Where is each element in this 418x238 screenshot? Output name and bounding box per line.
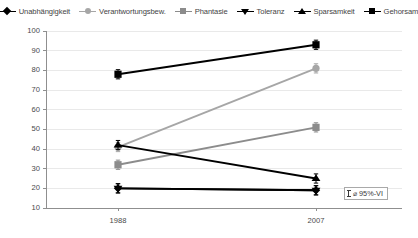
legend-marker-triangle-down-icon [237,7,254,16]
y-axis-tick-label: 80 [18,65,40,74]
legend-marker-square-icon [175,7,192,16]
ci-bar-icon [348,190,349,197]
legend-label: Phantasie [195,7,228,16]
ci-note-label: ⌀ 95%-VI [353,190,383,197]
legend-item-verantwortungsbew[interactable]: Verantwortungsbew. [79,7,166,16]
y-axis-tick-label: 90 [18,46,40,55]
plot-area: 100908070605040302010 19882007 ⌀ 95%-VI [0,22,417,238]
legend-item-gehorsam[interactable]: Gehorsam [364,7,418,16]
confidence-interval-note: ⌀ 95%-VI [344,187,388,200]
y-axis-tick-label: 70 [18,85,40,94]
plot-canvas [0,22,417,238]
chart-legend: Unabhängigkeit Verantwortungsbew. Phanta… [0,0,417,22]
y-axis-tick-label: 20 [18,183,40,192]
x-axis-tick-label: 1988 [98,216,138,225]
x-axis-tick-label: 2007 [296,216,336,225]
series-3 [114,184,321,195]
legend-label: Verantwortungsbew. [99,7,166,16]
legend-marker-triangle-up-icon [294,7,311,16]
legend-label: Sparsamkeit [314,7,355,16]
legend-item-phantasie[interactable]: Phantasie [175,7,228,16]
y-axis-tick-label: 60 [18,105,40,114]
legend-marker-square-icon [364,7,381,16]
series-5 [114,40,319,79]
legend-label: Unabhängigkeit [19,7,70,16]
legend-item-sparsamkeit[interactable]: Sparsamkeit [294,7,355,16]
legend-marker-circle-icon [79,7,96,16]
legend-label: Toleranz [257,7,285,16]
y-axis-tick-label: 30 [18,164,40,173]
series-layer [114,40,321,195]
legend-label: Gehorsam [384,7,418,16]
series-1 [114,64,319,152]
y-axis-tick-label: 100 [18,26,40,35]
y-axis-tick-label: 40 [18,144,40,153]
legend-item-unabhaengigkeit[interactable]: Unabhängigkeit [0,7,70,16]
y-axis-tick-label: 10 [18,203,40,212]
legend-marker-diamond-icon [0,7,16,16]
legend-item-toleranz[interactable]: Toleranz [237,7,285,16]
y-axis-tick-label: 50 [18,124,40,133]
